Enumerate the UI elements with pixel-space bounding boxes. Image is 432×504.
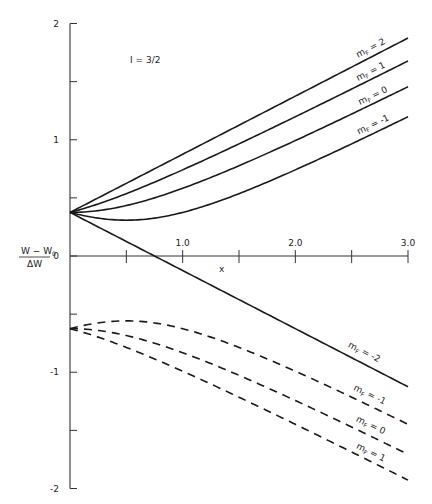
x-axis-label: x — [219, 264, 225, 274]
y-axis-label-numerator: W − W0 — [21, 246, 56, 257]
curve-mf--2 — [70, 212, 408, 386]
curve-label: mF = -2 — [346, 340, 382, 366]
y-tick-label: -2 — [50, 484, 59, 494]
curve-label: mF = 0 — [354, 414, 387, 438]
x-tick-label: 2.0 — [288, 238, 303, 248]
y-axis-label: W − W0 ΔW — [19, 246, 56, 269]
x-tick-label: 3.0 — [401, 238, 416, 248]
curve-mf-1 — [70, 61, 408, 212]
curve-labels: mF = 2mF = 1mF = 0mF = -1mF = -2mF = -1m… — [346, 36, 391, 464]
spin-annotation: I = 3/2 — [130, 55, 160, 65]
curve-mf-2 — [70, 38, 408, 212]
curve-mf--1-f-1- — [70, 321, 408, 424]
y-axis-label-denominator: ΔW — [27, 259, 42, 269]
curve-label: mF = -1 — [352, 383, 388, 408]
breit-rabi-chart: 210-1-21.02.03.0 mF = 2mF = 1mF = 0mF = … — [0, 0, 432, 504]
y-tick-label: 2 — [53, 19, 59, 29]
x-tick-label: 1.0 — [176, 238, 191, 248]
y-tick-label: 1 — [53, 135, 59, 145]
y-tick-label: -1 — [50, 367, 59, 377]
